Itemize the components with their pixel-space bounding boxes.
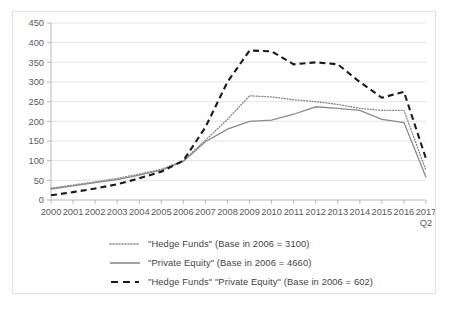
legend-label-hedge-funds-private-equity: "Hedge Funds" "Private Equity" (Base in … bbox=[148, 276, 373, 287]
svg-text:2005: 2005 bbox=[151, 207, 172, 217]
svg-text:2006: 2006 bbox=[173, 207, 194, 217]
svg-text:2010: 2010 bbox=[261, 207, 282, 217]
svg-text:2011: 2011 bbox=[284, 207, 304, 217]
svg-text:2015: 2015 bbox=[372, 207, 393, 217]
x-axis-tick-labels: 2000200120022003200420052006200720082009… bbox=[41, 207, 435, 229]
svg-text:0: 0 bbox=[39, 195, 44, 205]
svg-text:350: 350 bbox=[28, 58, 44, 68]
svg-text:2004: 2004 bbox=[129, 207, 150, 217]
svg-text:2003: 2003 bbox=[107, 207, 128, 217]
legend-swatch-dotted-icon bbox=[109, 239, 141, 249]
svg-text:2014: 2014 bbox=[349, 207, 370, 217]
gridlines bbox=[47, 23, 426, 200]
svg-text:2001: 2001 bbox=[63, 207, 84, 217]
svg-text:200: 200 bbox=[28, 117, 44, 127]
svg-text:50: 50 bbox=[34, 176, 44, 186]
svg-text:400: 400 bbox=[28, 38, 44, 48]
x-axis-tickmarks bbox=[51, 200, 426, 204]
data-series-group bbox=[51, 51, 426, 196]
legend-item-private-equity: "Private Equity" (Base in 2006 = 4660) bbox=[13, 253, 435, 272]
svg-text:2000: 2000 bbox=[41, 207, 62, 217]
legend-swatch-dashed-icon bbox=[109, 277, 141, 287]
svg-text:100: 100 bbox=[28, 156, 44, 166]
legend-label-private-equity: "Private Equity" (Base in 2006 = 4660) bbox=[148, 257, 311, 268]
chart-frame: 050100150200250300350400450 200020012002… bbox=[12, 11, 436, 294]
svg-text:2016: 2016 bbox=[394, 207, 415, 217]
svg-text:2009: 2009 bbox=[239, 207, 260, 217]
svg-text:250: 250 bbox=[28, 97, 44, 107]
svg-text:450: 450 bbox=[28, 18, 44, 28]
svg-text:2007: 2007 bbox=[195, 207, 216, 217]
axis-lines bbox=[51, 23, 426, 200]
svg-text:Q2: Q2 bbox=[420, 218, 432, 228]
svg-text:300: 300 bbox=[28, 77, 44, 87]
legend-item-hedge-funds-private-equity: "Hedge Funds" "Private Equity" (Base in … bbox=[13, 272, 435, 291]
svg-text:2012: 2012 bbox=[305, 207, 326, 217]
svg-text:150: 150 bbox=[28, 136, 44, 146]
svg-text:2013: 2013 bbox=[327, 207, 348, 217]
chart-legend: "Hedge Funds" (Base in 2006 = 3100) "Pri… bbox=[13, 234, 435, 291]
svg-text:2008: 2008 bbox=[217, 207, 238, 217]
y-axis-tick-labels: 050100150200250300350400450 bbox=[28, 18, 44, 205]
legend-item-hedge-funds: "Hedge Funds" (Base in 2006 = 3100) bbox=[13, 234, 435, 253]
legend-label-hedge-funds: "Hedge Funds" (Base in 2006 = 3100) bbox=[148, 238, 310, 249]
legend-swatch-solid-icon bbox=[109, 258, 141, 268]
svg-text:2002: 2002 bbox=[85, 207, 106, 217]
svg-text:2017: 2017 bbox=[416, 207, 435, 217]
